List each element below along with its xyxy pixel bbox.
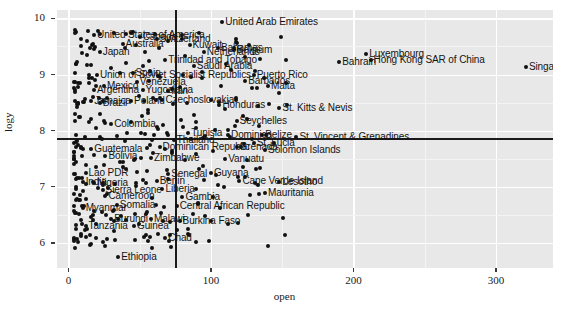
scatter-point: [73, 112, 77, 116]
scatter-point: [76, 81, 80, 85]
scatter-point: [109, 122, 113, 126]
scatter-point: [133, 238, 137, 242]
scatter-point: [145, 169, 149, 173]
scatter-point: [105, 237, 109, 241]
scatter-point: [115, 134, 119, 138]
scatter-point: [337, 60, 341, 64]
scatter-point: [85, 53, 89, 57]
scatter-point: [250, 86, 254, 90]
scatter-point: [89, 63, 93, 67]
scatter-point: [152, 133, 156, 137]
scatter-point: [180, 195, 184, 199]
scatter-point: [156, 127, 160, 131]
scatter-point: [72, 86, 76, 90]
scatter-point: [155, 179, 159, 183]
scatter-point: [125, 131, 129, 135]
y-axis-title: logy: [2, 112, 14, 132]
scatter-point: [266, 244, 270, 248]
scatter-point: [89, 242, 93, 246]
y-axis-tick: [51, 74, 55, 75]
scatter-point: [86, 29, 90, 33]
scatter-point: [80, 154, 84, 158]
scatter-point: [181, 125, 185, 129]
scatter-point: [73, 172, 77, 176]
scatter-point: [132, 224, 136, 228]
scatter-point: [73, 71, 77, 75]
scatter-point: [98, 50, 102, 54]
scatter-point: [89, 147, 93, 151]
scatter-point: [90, 76, 94, 80]
point-label: Singapore: [529, 62, 553, 72]
scatter-point: [194, 240, 198, 244]
scatter-point: [73, 31, 77, 35]
y-axis-tick: [51, 18, 55, 19]
scatter-point: [202, 50, 206, 54]
scatter-point: [163, 58, 167, 62]
scatter-point: [143, 50, 147, 54]
scatter-point: [281, 216, 285, 220]
scatter-point: [116, 255, 120, 259]
scatter-point: [223, 157, 227, 161]
scatter-point: [100, 137, 104, 141]
scatter-point: [243, 79, 247, 83]
point-label: Honduras: [222, 100, 265, 110]
point-label: Seychelles: [240, 116, 287, 126]
x-axis-tick-label: 0: [48, 274, 88, 286]
scatter-point: [95, 73, 99, 77]
point-label: St. Vincent & Grenadines: [299, 132, 409, 142]
scatter-point: [75, 105, 79, 109]
scatter-point: [72, 162, 76, 166]
figure-caption: [0, 304, 569, 311]
scatter-point: [146, 239, 150, 243]
scatter-point: [150, 138, 154, 142]
scatter-point: [103, 154, 107, 158]
scatter-point: [162, 205, 166, 209]
scatter-point: [255, 86, 259, 90]
y-axis-tick-label: 6: [40, 236, 46, 248]
scatter-point: [79, 234, 83, 238]
scatter-point: [73, 90, 77, 94]
point-label: Burkina Faso: [183, 216, 241, 226]
scatter-point: [145, 146, 149, 150]
point-label: Dominican Republic: [163, 142, 250, 152]
scatter-point: [216, 183, 220, 187]
scatter-point: [102, 119, 106, 123]
scatter-point: [179, 118, 183, 122]
point-label: Guinea: [137, 221, 169, 231]
y-axis-tick-label: 7: [40, 180, 46, 192]
scatter-point: [84, 235, 88, 239]
point-label: Vanuatu: [228, 154, 264, 164]
scatter-point: [80, 51, 84, 55]
x-axis-tick: [68, 268, 69, 272]
point-label: Mauritania: [268, 188, 314, 198]
scatter-point: [147, 59, 151, 63]
scatter-point: [277, 106, 281, 110]
scatter-point: [524, 65, 528, 69]
scatter-point: [80, 222, 84, 226]
scatter-point: [222, 185, 226, 189]
scatter-point: [103, 244, 107, 248]
scatter-point: [235, 119, 239, 123]
y-axis-tick: [51, 186, 55, 187]
scatter-point: [90, 43, 94, 47]
scatter-point: [87, 81, 91, 85]
scatter-point: [85, 63, 89, 67]
scatter-point: [79, 37, 83, 41]
point-label: Bahrain: [342, 57, 376, 67]
scatter-point: [74, 62, 78, 66]
scatter-point: [72, 204, 76, 208]
scatter-point: [148, 235, 152, 239]
scatter-point: [72, 192, 76, 196]
gridline-y-major: [57, 243, 553, 244]
point-label: Brazil: [103, 98, 127, 108]
scatter-point: [84, 163, 88, 167]
scatter-point: [267, 102, 271, 106]
point-label: Poland: [134, 96, 165, 106]
scatter-point: [74, 145, 78, 149]
scatter-point: [75, 176, 79, 180]
point-label: United Arab Emirates: [225, 17, 318, 27]
scatter-point: [135, 170, 139, 174]
scatter-point: [85, 39, 89, 43]
scatter-point: [79, 218, 83, 222]
scatter-point: [226, 128, 230, 132]
